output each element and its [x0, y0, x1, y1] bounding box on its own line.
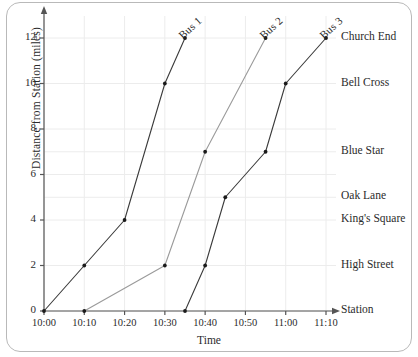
- travel-graph-figure: Distance from Station (miles) Time 10:00…: [0, 0, 418, 357]
- x-tick-label: 10:00: [22, 317, 66, 328]
- data-point: [123, 218, 127, 222]
- x-tick-label: 10:40: [183, 317, 227, 328]
- data-point: [42, 309, 46, 313]
- data-point: [163, 82, 167, 86]
- stop-label: Oak Lane: [341, 189, 386, 201]
- x-axis-title: Time: [0, 334, 418, 346]
- data-point: [82, 309, 86, 313]
- stop-label: High Street: [341, 258, 394, 270]
- x-tick-label: 11:00: [264, 317, 308, 328]
- x-tick-label: 10:50: [223, 317, 267, 328]
- y-tick-label: 0: [14, 303, 36, 315]
- x-tick-label: 10:30: [143, 317, 187, 328]
- stop-label: Station: [341, 303, 374, 315]
- stop-label: Blue Star: [341, 144, 384, 156]
- x-tick-label: 10:10: [62, 317, 106, 328]
- x-tick-label: 11:10: [304, 317, 348, 328]
- data-point: [264, 150, 268, 154]
- y-tick-label: 6: [14, 167, 36, 179]
- stop-label: King's Square: [341, 212, 405, 224]
- y-tick-label: 12: [14, 30, 36, 42]
- y-tick-label: 2: [14, 258, 36, 270]
- gridlines: [44, 16, 336, 311]
- y-tick-label: 4: [14, 212, 36, 224]
- data-point: [284, 82, 288, 86]
- data-point: [82, 264, 86, 268]
- stop-label: Church End: [341, 30, 396, 42]
- tick-marks: [40, 38, 326, 315]
- stop-label: Bell Cross: [341, 76, 389, 88]
- x-tick-label: 10:20: [103, 317, 147, 328]
- axes: [41, 6, 340, 314]
- data-point: [203, 264, 207, 268]
- data-point: [183, 309, 187, 313]
- data-point: [223, 195, 227, 199]
- data-point: [163, 264, 167, 268]
- x-axis-arrowhead: [332, 308, 340, 314]
- data-point: [203, 150, 207, 154]
- y-tick-label: 10: [14, 76, 36, 88]
- y-tick-label: 8: [14, 121, 36, 133]
